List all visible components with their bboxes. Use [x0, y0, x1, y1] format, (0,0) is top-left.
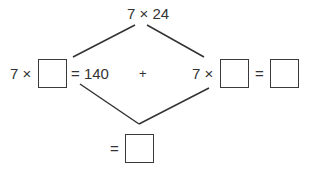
line-top-left: [73, 25, 135, 57]
answer-box-total[interactable]: [125, 134, 154, 163]
plus-sign: +: [139, 65, 147, 83]
line-top-right: [147, 25, 204, 57]
right-equals: =: [255, 65, 264, 83]
line-bottom-left: [80, 84, 139, 124]
answer-box-right-factor[interactable]: [220, 59, 249, 88]
left-result: = 140: [71, 65, 109, 83]
top-expression: 7 × 24: [127, 5, 169, 23]
bottom-equals: =: [110, 140, 119, 158]
line-bottom-right: [139, 88, 209, 124]
answer-box-right-product[interactable]: [270, 59, 299, 88]
left-prefix: 7 ×: [10, 65, 31, 83]
right-prefix: 7 ×: [192, 65, 213, 83]
answer-box-left-factor[interactable]: [38, 59, 67, 88]
